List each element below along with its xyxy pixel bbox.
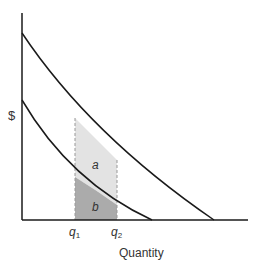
diagram-canvas: $ a b q1 q2 Quantity: [0, 0, 258, 267]
tick-q1-label: q1: [69, 225, 81, 240]
y-axis-label: $: [8, 108, 16, 123]
region-a-label: a: [92, 158, 99, 172]
upper-curve: [22, 33, 214, 220]
tick-q2-label: q2: [111, 225, 123, 240]
region-b-label: b: [92, 200, 99, 214]
x-axis-label: Quantity: [119, 246, 164, 260]
